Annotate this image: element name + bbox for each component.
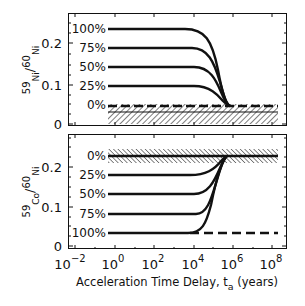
top-ytick-0: 0 bbox=[54, 117, 62, 132]
xtick-1e0: 100 bbox=[102, 253, 125, 272]
top-label-75pct: 75% bbox=[79, 41, 106, 55]
bottom-label-50pct: 50% bbox=[79, 187, 106, 201]
bottom-label-0pct: 0% bbox=[87, 149, 106, 163]
bottom-label-75pct: 75% bbox=[79, 207, 106, 221]
x-tick-labels: 10−2 100 102 104 106 108 bbox=[54, 253, 282, 272]
bottom-y-axis-label: 59Co/60Ni bbox=[21, 167, 41, 218]
bottom-panel: 0 0.1 0.2 0% 25% 50% 75% 100% 59Co/60Ni bbox=[21, 134, 287, 254]
bottom-ytick-0.2: 0.2 bbox=[41, 160, 62, 175]
top-ytick-0.1: 0.1 bbox=[41, 78, 62, 93]
bottom-label-25pct: 25% bbox=[79, 168, 106, 182]
bottom-series-75pct bbox=[108, 156, 227, 214]
xtick-1e8: 108 bbox=[260, 253, 283, 272]
xtick-1e-2: 10−2 bbox=[54, 253, 85, 272]
top-label-25pct: 25% bbox=[79, 79, 106, 93]
top-ytick-0.2: 0.2 bbox=[41, 36, 62, 51]
bottom-ytick-0: 0 bbox=[54, 239, 62, 254]
xtick-1e2: 102 bbox=[142, 253, 165, 272]
top-label-50pct: 50% bbox=[79, 60, 106, 74]
xtick-1e6: 106 bbox=[221, 253, 244, 272]
top-series-25pct bbox=[108, 86, 230, 106]
chart: 0 0.1 0.2 100% 75% 50% 25% 0% 59Ni/60Ni bbox=[0, 0, 305, 306]
bottom-ytick-0.1: 0.1 bbox=[41, 200, 62, 215]
top-panel: 0 0.1 0.2 100% 75% 50% 25% 0% 59Ni/60Ni bbox=[21, 13, 287, 132]
top-label-0pct: 0% bbox=[87, 98, 106, 112]
top-y-axis-label: 59Ni/60Ni bbox=[21, 46, 41, 94]
bottom-label-100pct: 100% bbox=[72, 226, 106, 240]
xtick-1e4: 104 bbox=[182, 253, 205, 272]
top-label-100pct: 100% bbox=[72, 22, 106, 36]
x-axis-label: Acceleration Time Delay, ta (years) bbox=[76, 275, 278, 292]
top-series-75pct bbox=[108, 48, 230, 106]
